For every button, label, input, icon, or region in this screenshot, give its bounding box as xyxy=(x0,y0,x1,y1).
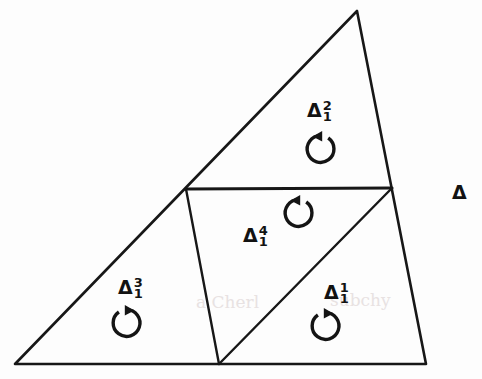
label-delta-1-2: Δ21 xyxy=(307,101,332,123)
triangle-diagram-svg xyxy=(0,0,482,379)
delta-glyph: Δ xyxy=(118,276,133,298)
rotation-arrow-delta-1-1 xyxy=(303,306,343,346)
midline-left-vertical xyxy=(186,189,219,364)
label-delta-1-4: Δ41 xyxy=(243,226,268,248)
index-stack: 11 xyxy=(340,283,349,304)
standalone-delta-symbol: Δ xyxy=(452,183,467,202)
delta-glyph: Δ xyxy=(307,99,322,121)
rotation-arrow-delta-1-3 xyxy=(104,303,144,343)
subscript-index: 1 xyxy=(323,111,332,122)
index-stack: 31 xyxy=(134,278,143,299)
label-delta-1-1: Δ11 xyxy=(324,283,349,305)
index-stack: 21 xyxy=(323,101,332,122)
rotation-arrow-delta-1-4 xyxy=(281,193,321,233)
subscript-index: 1 xyxy=(134,288,143,299)
delta-glyph: Δ xyxy=(243,224,258,246)
midline-horizontal xyxy=(186,188,392,189)
index-stack: 41 xyxy=(259,226,268,247)
label-delta-1-3: Δ31 xyxy=(118,278,143,300)
rotation-arrow-delta-1-2 xyxy=(303,129,343,169)
figure-canvas: a Cherl subchy Δ21 Δ41 Δ31 Δ xyxy=(0,0,482,379)
delta-glyph: Δ xyxy=(324,281,339,303)
subscript-index: 1 xyxy=(340,293,349,304)
subscript-index: 1 xyxy=(259,236,268,247)
